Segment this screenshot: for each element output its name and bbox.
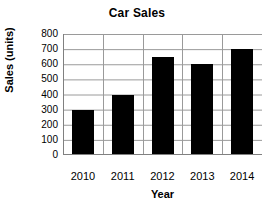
bar <box>72 110 94 155</box>
y-axis-tick-labels: 8007006005004003002001000 <box>25 34 58 155</box>
plot-area <box>63 34 262 155</box>
y-axis-tick-label: 100 <box>28 135 58 145</box>
bar-chart: Car Sales Sales (units) 8007006005004003… <box>0 0 274 208</box>
x-axis-tick-label: 2013 <box>182 170 222 182</box>
x-axis-tick-label: 2010 <box>63 170 103 182</box>
y-axis-tick-label: 0 <box>28 150 58 160</box>
chart-title: Car Sales <box>0 6 274 20</box>
plot-svg <box>63 34 262 155</box>
y-axis-tick-label: 200 <box>28 120 58 130</box>
y-axis-tick-label: 500 <box>28 74 58 84</box>
bar <box>152 57 174 155</box>
bar <box>231 49 253 155</box>
x-axis-title: Year <box>63 188 262 200</box>
x-axis-tick-label: 2011 <box>103 170 143 182</box>
y-axis-tick-label: 800 <box>28 29 58 39</box>
bar <box>191 64 213 155</box>
bar <box>112 95 134 155</box>
y-axis-tick-label: 300 <box>28 105 58 115</box>
y-axis-title: Sales (units) <box>3 5 15 115</box>
y-axis-tick-label: 700 <box>28 44 58 54</box>
x-axis-tick-label: 2014 <box>222 170 262 182</box>
x-axis-tick-labels: 20102011201220132014 <box>63 170 262 184</box>
y-axis-tick-label: 600 <box>28 59 58 69</box>
x-axis-tick-label: 2012 <box>143 170 183 182</box>
y-axis-tick-label: 400 <box>28 90 58 100</box>
